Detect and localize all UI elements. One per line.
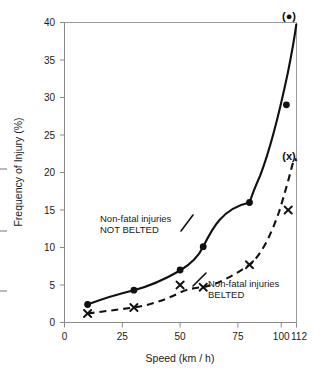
endpoint-label-not-belted: (●) — [282, 10, 296, 22]
y-tick-label-35: 35 — [44, 55, 56, 66]
x-tick-label-100: 100 — [273, 331, 290, 342]
annot-not-belted-line1: Non-fatal injuries — [100, 213, 172, 224]
x-tick-label-25: 25 — [117, 331, 129, 342]
annot-not-belted: Non-fatal injuries NOT BELTED — [100, 213, 193, 235]
annot-belted-line1: Non-fatal injuries — [208, 278, 280, 289]
figure-page: 0 5 10 15 20 25 30 35 40 0 25 50 75 100 … — [0, 0, 323, 375]
data-point-not-belted-102 — [283, 101, 290, 108]
x-tick-label-112: 112 — [291, 331, 307, 342]
data-point-not-belted-60 — [200, 243, 207, 250]
y-tick-label-15: 15 — [44, 205, 56, 216]
data-point-belted-50 — [177, 282, 184, 289]
y-tick-label-0: 0 — [49, 317, 55, 328]
injury-frequency-vs-speed-chart: 0 5 10 15 20 25 30 35 40 0 25 50 75 100 … — [0, 0, 323, 375]
y-axis-tick-labels: 0 5 10 15 20 25 30 35 40 — [44, 17, 56, 328]
data-point-not-belted-50 — [177, 267, 184, 274]
annot-belted-line2: BELTED — [208, 289, 244, 300]
x-tick-label-50: 50 — [175, 331, 187, 342]
y-axis-title: Frequency of Injury (%) — [12, 117, 24, 226]
series-not-belted-markers — [84, 101, 290, 308]
data-point-not-belted-10 — [84, 301, 91, 308]
data-point-belted-80 — [246, 261, 253, 268]
data-point-belted-104 — [285, 207, 292, 214]
annot-not-belted-line2: NOT BELTED — [100, 224, 159, 235]
x-axis-ticks — [65, 323, 297, 328]
annot-not-belted-leader — [181, 215, 193, 231]
x-axis-tick-labels: 0 25 50 75 100 112 — [62, 331, 308, 342]
y-tick-label-20: 20 — [44, 167, 56, 178]
y-tick-label-40: 40 — [44, 17, 56, 28]
x-tick-label-75: 75 — [232, 331, 244, 342]
y-tick-label-5: 5 — [49, 280, 55, 291]
endpoint-label-belted: (x) — [282, 150, 296, 162]
y-axis-ticks — [60, 23, 65, 323]
x-tick-label-0: 0 — [62, 331, 68, 342]
y-tick-label-30: 30 — [44, 92, 56, 103]
y-tick-label-10: 10 — [44, 242, 56, 253]
y-tick-label-25: 25 — [44, 130, 56, 141]
x-axis-title: Speed (km / h) — [146, 352, 215, 364]
series-belted-line — [88, 159, 297, 314]
data-point-not-belted-30 — [131, 287, 138, 294]
series-not-belted-line — [88, 25, 297, 305]
data-point-not-belted-80 — [246, 199, 253, 206]
